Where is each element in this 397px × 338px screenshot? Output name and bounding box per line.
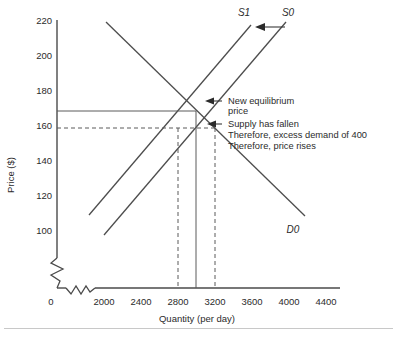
curve-label-s0: S0 xyxy=(282,7,295,18)
x-tick-label-2000: 2000 xyxy=(93,296,114,307)
y-tick-label-120: 120 xyxy=(36,190,52,201)
curve-label-s1: S1 xyxy=(238,7,250,18)
x-tick-label-3600: 3600 xyxy=(241,296,262,307)
annotation-supply-fallen-line1: Supply has fallen xyxy=(228,119,299,129)
annotation-new-equilibrium-line1: New equilibrium xyxy=(228,96,294,106)
x-axis-title: Quantity (per day) xyxy=(159,313,235,324)
annotation-new-equilibrium-line2: price xyxy=(228,106,248,116)
y-tick-label-180: 180 xyxy=(36,85,52,96)
footer-divider xyxy=(4,328,393,329)
x-axis-break-icon xyxy=(66,286,95,294)
x-tick-label-3200: 3200 xyxy=(204,296,225,307)
supply-demand-chart: 220 200 180 160 140 120 100 Price ($) 0 … xyxy=(0,0,397,338)
y-tick-label-220: 220 xyxy=(36,15,52,26)
y-tick-label-160: 160 xyxy=(36,120,52,131)
annotation-1-arrow-icon xyxy=(205,98,214,105)
x-tick-label-4400: 4400 xyxy=(315,296,336,307)
curve-label-d0: D0 xyxy=(287,224,300,235)
chart-canvas: 220 200 180 160 140 120 100 Price ($) 0 … xyxy=(0,0,397,338)
x-tick-label-0: 0 xyxy=(48,296,53,307)
x-tick-label-2800: 2800 xyxy=(167,296,188,307)
annotation-supply-fallen-line2: Therefore, excess demand of 400 xyxy=(228,130,367,140)
x-tick-label-2400: 2400 xyxy=(130,296,151,307)
y-axis-title: Price ($) xyxy=(5,157,16,193)
supply-shift-arrow-icon xyxy=(255,23,265,31)
y-tick-label-100: 100 xyxy=(36,225,52,236)
supply-curve-s1 xyxy=(89,25,251,215)
annotation-supply-fallen-line3: Therefore, price rises xyxy=(228,141,316,151)
y-tick-label-140: 140 xyxy=(36,155,52,166)
x-tick-label-4000: 4000 xyxy=(278,296,299,307)
y-tick-label-200: 200 xyxy=(36,50,52,61)
y-axis-break-icon xyxy=(51,258,63,288)
